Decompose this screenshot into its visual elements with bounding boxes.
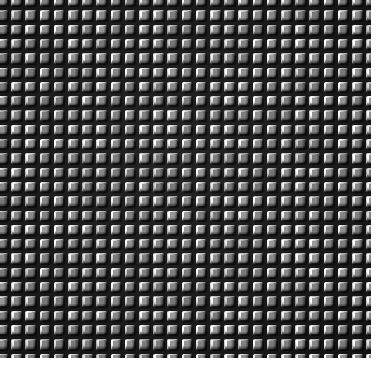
cell-bottom-shadow: [0, 46, 8, 49]
grid-cell: [324, 325, 335, 335]
grid-cell: [196, 139, 207, 149]
cell-bottom-shadow: [339, 103, 349, 106]
cell-bottom-shadow: [112, 75, 122, 78]
grid-cell: [0, 0, 8, 6]
cell-bottom-shadow: [325, 46, 335, 49]
cell-bottom-shadow: [0, 275, 8, 278]
grid-cell: [54, 225, 65, 235]
grid-cell: [96, 82, 107, 92]
grid-cell: [352, 82, 363, 92]
grid-cell: [68, 296, 79, 306]
cell-bottom-shadow: [12, 89, 22, 92]
grid-cell: [295, 196, 306, 206]
cell-bottom-shadow: [225, 175, 235, 178]
grid-cell: [253, 253, 264, 263]
grid-cell: [281, 225, 292, 235]
cell-bottom-shadow: [211, 118, 221, 121]
grid-cell: [0, 153, 8, 163]
cell-bottom-shadow: [140, 3, 150, 6]
grid-cell: [40, 339, 51, 349]
grid-cell: [267, 239, 278, 249]
grid-cell: [153, 110, 164, 120]
grid-cell: [338, 339, 349, 349]
cell-bottom-shadow: [0, 232, 8, 235]
grid-cell: [210, 225, 221, 235]
cell-bottom-shadow: [168, 218, 178, 221]
grid-cell: [167, 253, 178, 263]
cell-bottom-shadow: [325, 246, 335, 249]
cell-bottom-shadow: [268, 32, 278, 35]
grid-cell: [182, 25, 193, 35]
cell-bottom-shadow: [83, 246, 93, 249]
cell-bottom-shadow: [112, 304, 122, 307]
grid-cell: [309, 268, 320, 278]
grid-cell: [167, 311, 178, 321]
grid-cell: [352, 110, 363, 120]
grid-cell: [0, 211, 8, 221]
grid-cell: [0, 168, 8, 178]
grid-cell: [139, 239, 150, 249]
grid-cell: [125, 225, 136, 235]
cell-bottom-shadow: [55, 118, 65, 121]
grid-cell: [224, 0, 235, 6]
cell-bottom-shadow: [296, 332, 306, 335]
cell-bottom-shadow: [296, 75, 306, 78]
grid-cell: [352, 339, 363, 349]
cell-bottom-shadow: [55, 261, 65, 264]
grid-cell: [54, 153, 65, 163]
grid-cell: [338, 39, 349, 49]
grid-cell: [0, 96, 8, 106]
grid-cell: [11, 339, 22, 349]
cell-bottom-shadow: [26, 3, 36, 6]
grid-cell: [295, 139, 306, 149]
grid-cell: [182, 96, 193, 106]
cell-bottom-shadow: [225, 275, 235, 278]
cell-bottom-shadow: [239, 203, 249, 206]
grid-cell: [111, 82, 122, 92]
cell-bottom-shadow: [154, 132, 164, 135]
grid-cell: [309, 168, 320, 178]
cell-bottom-shadow: [69, 189, 79, 192]
grid-cell: [238, 239, 249, 249]
image-canvas: [0, 0, 383, 367]
grid-cell: [68, 53, 79, 63]
grid-cell: [253, 96, 264, 106]
grid-cell: [224, 82, 235, 92]
grid-cell: [196, 239, 207, 249]
grid-cell: [324, 239, 335, 249]
cell-bottom-shadow: [254, 218, 264, 221]
cell-bottom-shadow: [225, 3, 235, 6]
grid-cell: [352, 39, 363, 49]
grid-cell: [267, 110, 278, 120]
cell-bottom-shadow: [183, 32, 193, 35]
grid-cell: [196, 0, 207, 6]
grid-cell: [295, 39, 306, 49]
cell-bottom-shadow: [12, 146, 22, 149]
cell-bottom-shadow: [154, 175, 164, 178]
cell-bottom-shadow: [310, 203, 320, 206]
cell-bottom-shadow: [83, 318, 93, 321]
grid-cell: [11, 253, 22, 263]
grid-cell: [25, 296, 36, 306]
cell-bottom-shadow: [310, 3, 320, 6]
grid-cell: [54, 253, 65, 263]
grid-cell: [68, 282, 79, 292]
cell-bottom-shadow: [225, 246, 235, 249]
grid-cell: [309, 153, 320, 163]
cell-bottom-shadow: [26, 32, 36, 35]
cell-bottom-shadow: [26, 146, 36, 149]
grid-cell: [11, 0, 22, 6]
cell-bottom-shadow: [26, 261, 36, 264]
cell-bottom-shadow: [211, 75, 221, 78]
cell-bottom-shadow: [353, 275, 363, 278]
cell-bottom-shadow: [41, 332, 51, 335]
cell-bottom-shadow: [239, 146, 249, 149]
cell-bottom-shadow: [197, 132, 207, 135]
cell-bottom-shadow: [26, 332, 36, 335]
grid-cell: [196, 253, 207, 263]
grid-cell: [40, 282, 51, 292]
grid-cell: [96, 125, 107, 135]
cell-bottom-shadow: [325, 132, 335, 135]
cell-bottom-shadow: [183, 146, 193, 149]
grid-cell: [267, 25, 278, 35]
